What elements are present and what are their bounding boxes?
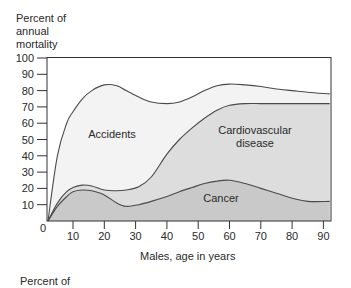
label-cancer: Cancer (203, 192, 239, 204)
x-tick-label: 80 (286, 230, 298, 242)
x-tick-label: 10 (67, 230, 79, 242)
x-tick-label: 50 (192, 230, 204, 242)
y-tick-label: 30 (22, 166, 34, 178)
y-tick-label: 10 (22, 199, 34, 211)
x-tick-label: 30 (129, 230, 141, 242)
x-axis-title: Males, age in years (140, 250, 235, 262)
y-tick-label: 0 (40, 222, 46, 234)
y-tick-label: 50 (22, 134, 34, 146)
x-tick-label: 40 (161, 230, 173, 242)
x-tick-label: 60 (223, 230, 235, 242)
next-chart-title-fragment: Percent of (20, 275, 70, 287)
y-tick-label: 100 (16, 52, 34, 64)
y-tick-label: 90 (22, 68, 34, 80)
label-cardiovascular-line-1: Cardiovascular (218, 124, 292, 136)
y-tick-label: 40 (22, 150, 34, 162)
x-tick-label: 90 (317, 230, 329, 242)
y-tick-label: 70 (22, 101, 34, 113)
y-tick-label: 80 (22, 85, 34, 97)
y-axis: 0102030405060708090100 (16, 52, 47, 234)
y-tick-label: 60 (22, 117, 34, 129)
x-tick-label: 70 (255, 230, 267, 242)
label-cardiovascular-line-2: disease (236, 137, 274, 149)
x-tick-label: 20 (98, 230, 110, 242)
x-axis: 102030405060708090 (67, 221, 330, 242)
area-regions (48, 84, 330, 221)
stacked-area-chart: 0102030405060708090100 10203040506070809… (0, 0, 351, 288)
y-tick-label: 20 (22, 182, 34, 194)
label-accidents: Accidents (88, 128, 136, 140)
